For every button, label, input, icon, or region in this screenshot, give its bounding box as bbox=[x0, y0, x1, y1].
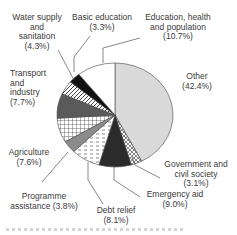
label-government: Government andcivil society(3.1%) bbox=[160, 160, 232, 189]
label-debt-relief: Debt relief(8.1%) bbox=[86, 206, 146, 225]
label-agriculture: Agriculture(7.6%) bbox=[4, 148, 54, 167]
caption-faded bbox=[6, 228, 186, 231]
label-other: Other(42.4%) bbox=[172, 72, 222, 91]
label-education-health: Education, healthand population(10.7%) bbox=[142, 13, 214, 42]
label-programme: Programmeassistance (3.8%) bbox=[4, 192, 84, 211]
label-transport: Transportandindustry(7.7%) bbox=[10, 69, 46, 107]
label-water: Water supplyandsanitation(4.3%) bbox=[8, 13, 66, 51]
label-basic-education: Basic education(3.3%) bbox=[68, 13, 136, 32]
label-emergency: Emergency aid(9.0%) bbox=[140, 190, 210, 209]
